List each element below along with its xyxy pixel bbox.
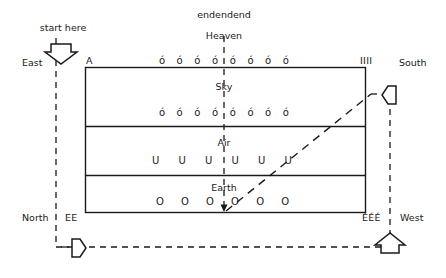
diagram-canvas: endendend Heaven start here East South N… — [0, 0, 446, 278]
band-label-sky: Sky — [216, 82, 233, 92]
right-arrow-left-icon — [382, 86, 396, 104]
heaven-label: Heaven — [206, 31, 242, 41]
corner-mark-top-left: A — [86, 56, 93, 66]
start-here-label: start here — [40, 23, 87, 33]
start-here-arrow-down-icon — [45, 44, 77, 64]
band-label-air: Air — [217, 138, 230, 148]
bottom-left-arrow-right-icon — [72, 239, 86, 257]
corner-mark-bottom-right: ÉÉÉ — [362, 213, 381, 223]
bottom-right-arrow-up-icon — [375, 233, 405, 253]
band-label-earth: Earth — [211, 183, 236, 193]
glyph-row-heaven: ó ó ó ó ó ó ó ó — [159, 56, 293, 66]
glyph-row-air: U U U U U U — [152, 156, 300, 166]
corner-mark-bottom-left: EE — [65, 213, 78, 223]
endendend-label: endendend — [197, 10, 251, 20]
glyph-row-earth: O O O O O O — [156, 197, 296, 207]
compass-label-west: West — [400, 213, 423, 223]
compass-label-north: North — [22, 213, 49, 223]
corner-mark-top-right: IIII — [360, 56, 372, 66]
glyph-row-sky: ó ó ó ó ó ó ó ó — [159, 108, 293, 118]
compass-label-south: South — [399, 58, 427, 68]
compass-label-east: East — [22, 58, 43, 68]
